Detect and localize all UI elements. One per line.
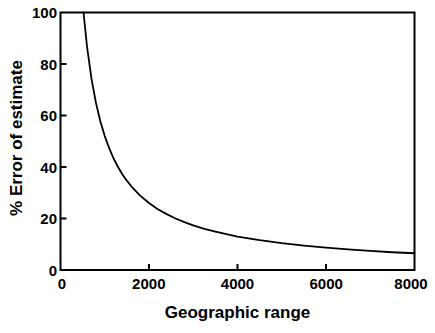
- axis-tick-marks: [61, 64, 327, 270]
- plot-area: [0, 0, 435, 333]
- data-series-line: [84, 13, 415, 254]
- chart-figure: % Error of estimate 100 80 60 40 20 0 0 …: [0, 0, 435, 333]
- plot-frame: [61, 13, 415, 271]
